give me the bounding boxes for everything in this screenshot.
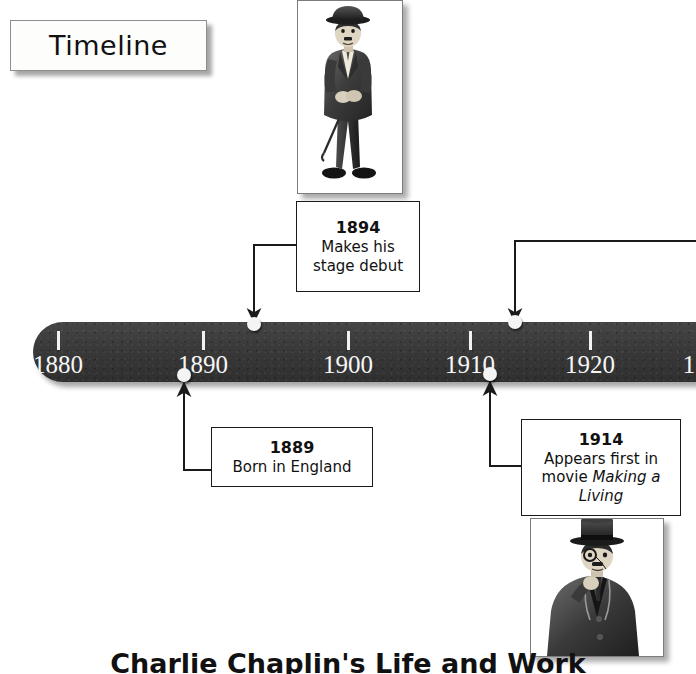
event-description: Born in England bbox=[227, 458, 358, 476]
event-year: 1894 bbox=[336, 218, 381, 238]
event-dot-1914[interactable] bbox=[483, 367, 497, 381]
connector-lines bbox=[0, 0, 696, 674]
event-callout-1894[interactable]: 1894 Makes his stage debut bbox=[296, 201, 420, 292]
event-dot-1894[interactable] bbox=[247, 317, 261, 331]
event-dot-1889[interactable] bbox=[177, 368, 191, 382]
timeline-diagram: Timeline bbox=[0, 0, 696, 674]
connector-1894 bbox=[254, 245, 296, 316]
event-dot-offscreen[interactable] bbox=[508, 315, 522, 329]
connector-1889 bbox=[184, 389, 211, 470]
event-year: 1914 bbox=[579, 430, 624, 450]
event-callout-1914[interactable]: 1914 Appears first in movie Making a Liv… bbox=[521, 419, 681, 516]
event-year: 1889 bbox=[270, 438, 315, 458]
event-description: Appears first in movie Making a Living bbox=[522, 450, 680, 505]
event-callout-1889[interactable]: 1889 Born in England bbox=[211, 427, 373, 487]
figure-caption: Charlie Chaplin's Life and Work bbox=[0, 648, 696, 674]
connector-offscreen-right bbox=[515, 241, 696, 316]
connector-1914 bbox=[490, 388, 521, 466]
event-description: Makes his stage debut bbox=[297, 238, 419, 275]
